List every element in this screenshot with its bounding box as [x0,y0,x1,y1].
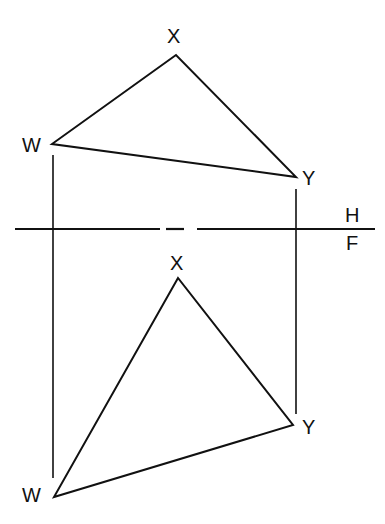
front-view-triangle [54,278,293,497]
top-view-label-x: X [167,25,180,47]
front-view-label-y: Y [302,416,315,438]
front-view-label-w: W [22,484,41,506]
plane-label-f: F [346,232,358,254]
top-view-triangle [52,55,296,177]
front-view-label-x: X [170,252,183,274]
projection-diagram: X W Y H F X Y W [0,0,385,524]
projectors [53,155,296,478]
plane-label-h: H [345,204,359,226]
top-view-label-w: W [22,134,41,156]
top-view-label-y: Y [302,167,315,189]
